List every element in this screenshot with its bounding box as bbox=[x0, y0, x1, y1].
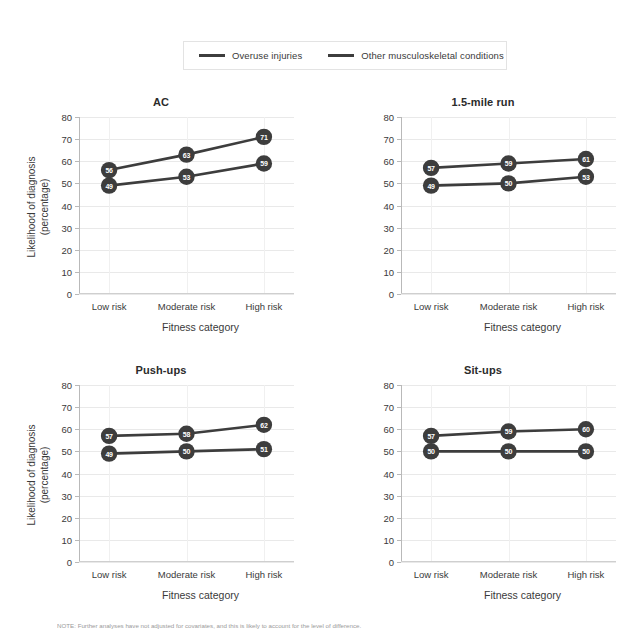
x-tick-label: Low risk bbox=[92, 301, 127, 312]
data-point-marker bbox=[178, 146, 194, 162]
data-point-marker bbox=[178, 169, 194, 185]
y-axis-title-line2: (percentage) bbox=[38, 390, 51, 560]
data-point-marker bbox=[500, 443, 516, 459]
y-tick-label: 40 bbox=[383, 468, 394, 479]
plot-area: 80706050403020100Low riskModerate riskHi… bbox=[401, 117, 616, 294]
y-tick-label: 0 bbox=[67, 289, 72, 300]
chart-legend: Overuse injuries Other musculoskeletal c… bbox=[183, 41, 507, 70]
chart-row-bottom: Push-upsLikelihood of diagnosis(percenta… bbox=[0, 360, 644, 628]
y-axis-title: Likelihood of diagnosis(percentage) bbox=[25, 122, 51, 292]
y-tick-label: 0 bbox=[389, 289, 394, 300]
y-tick-label: 50 bbox=[383, 446, 394, 457]
x-axis-title: Fitness category bbox=[322, 589, 644, 601]
y-axis-title: Likelihood of diagnosis(percentage) bbox=[25, 390, 51, 560]
y-tick-label: 50 bbox=[61, 446, 72, 457]
y-tick-label: 50 bbox=[383, 178, 394, 189]
x-axis-title: Fitness category bbox=[322, 321, 644, 333]
gridline-horizontal bbox=[79, 294, 294, 295]
data-point-marker bbox=[500, 175, 516, 191]
y-tick-label: 20 bbox=[61, 512, 72, 523]
x-axis-title: Fitness category bbox=[0, 321, 322, 333]
y-tick-label: 80 bbox=[383, 112, 394, 123]
y-tick-mark bbox=[75, 562, 79, 563]
chart-footnote: NOTE: Further analyses have not adjusted… bbox=[57, 622, 637, 632]
plot-area: 80706050403020100Low riskModerate riskHi… bbox=[79, 385, 294, 562]
x-tick-label: Low risk bbox=[414, 569, 449, 580]
data-point-marker bbox=[256, 129, 272, 145]
x-tick-label: Low risk bbox=[414, 301, 449, 312]
x-tick-label: Moderate risk bbox=[480, 301, 538, 312]
x-axis-title: Fitness category bbox=[0, 589, 322, 601]
y-tick-label: 20 bbox=[383, 244, 394, 255]
data-point-marker bbox=[101, 428, 117, 444]
y-tick-mark bbox=[75, 294, 79, 295]
chart-panel-push-ups: Push-upsLikelihood of diagnosis(percenta… bbox=[0, 360, 322, 628]
series-layer bbox=[401, 385, 616, 562]
y-tick-label: 0 bbox=[67, 557, 72, 568]
y-tick-label: 20 bbox=[383, 512, 394, 523]
y-tick-label: 40 bbox=[61, 468, 72, 479]
data-point-marker bbox=[423, 428, 439, 444]
y-tick-label: 70 bbox=[61, 134, 72, 145]
x-tick-label: Moderate risk bbox=[480, 569, 538, 580]
x-tick-label: High risk bbox=[245, 569, 282, 580]
data-point-marker bbox=[578, 151, 594, 167]
data-point-marker bbox=[578, 421, 594, 437]
y-tick-label: 10 bbox=[383, 534, 394, 545]
data-point-marker bbox=[256, 155, 272, 171]
gridline-horizontal bbox=[79, 562, 294, 563]
y-tick-label: 30 bbox=[383, 222, 394, 233]
chart-title: 1.5-mile run bbox=[322, 96, 644, 108]
chart-title: AC bbox=[0, 96, 322, 108]
y-tick-label: 30 bbox=[383, 490, 394, 501]
x-tick-label: High risk bbox=[567, 569, 604, 580]
y-tick-label: 70 bbox=[61, 402, 72, 413]
chart-panel-sit-ups: Sit-ups80706050403020100Low riskModerate… bbox=[322, 360, 644, 628]
y-tick-label: 10 bbox=[383, 266, 394, 277]
data-point-marker bbox=[178, 443, 194, 459]
y-tick-label: 10 bbox=[61, 534, 72, 545]
y-tick-label: 60 bbox=[383, 424, 394, 435]
chart-row-top: ACLikelihood of diagnosis(percentage)807… bbox=[0, 92, 644, 360]
data-point-marker bbox=[101, 445, 117, 461]
y-tick-label: 50 bbox=[61, 178, 72, 189]
chart-panel-1-5-mile-run: 1.5-mile run80706050403020100Low riskMod… bbox=[322, 92, 644, 360]
data-point-marker bbox=[256, 441, 272, 457]
x-tick-label: Low risk bbox=[92, 569, 127, 580]
data-point-marker bbox=[500, 155, 516, 171]
y-tick-label: 40 bbox=[383, 200, 394, 211]
chart-panel-ac: ACLikelihood of diagnosis(percentage)807… bbox=[0, 92, 322, 360]
y-tick-label: 80 bbox=[383, 380, 394, 391]
legend-entry-overuse-injuries: Overuse injuries bbox=[199, 50, 302, 61]
y-tick-label: 30 bbox=[61, 490, 72, 501]
y-tick-mark bbox=[397, 294, 401, 295]
y-tick-mark bbox=[397, 562, 401, 563]
gridline-horizontal bbox=[401, 562, 616, 563]
y-tick-label: 0 bbox=[389, 557, 394, 568]
y-tick-label: 10 bbox=[61, 266, 72, 277]
y-tick-label: 60 bbox=[61, 156, 72, 167]
data-point-marker bbox=[578, 443, 594, 459]
plot-area: 80706050403020100Low riskModerate riskHi… bbox=[79, 117, 294, 294]
y-axis-title-line1: Likelihood of diagnosis bbox=[26, 156, 37, 257]
chart-title: Sit-ups bbox=[322, 364, 644, 376]
data-point-marker bbox=[500, 423, 516, 439]
data-point-marker bbox=[256, 417, 272, 433]
y-tick-label: 80 bbox=[61, 112, 72, 123]
y-tick-label: 30 bbox=[61, 222, 72, 233]
data-point-marker bbox=[423, 160, 439, 176]
x-tick-label: Moderate risk bbox=[158, 569, 216, 580]
series-layer bbox=[79, 385, 294, 562]
chart-title: Push-ups bbox=[0, 364, 322, 376]
x-tick-label: High risk bbox=[567, 301, 604, 312]
data-point-marker bbox=[423, 177, 439, 193]
y-tick-label: 20 bbox=[61, 244, 72, 255]
legend-entry-other-musculoskeletal-conditions: Other musculoskeletal conditions bbox=[328, 50, 504, 61]
legend-label: Overuse injuries bbox=[232, 50, 302, 61]
x-tick-label: Moderate risk bbox=[158, 301, 216, 312]
chart-grid: ACLikelihood of diagnosis(percentage)807… bbox=[0, 92, 644, 628]
y-axis-title-line1: Likelihood of diagnosis bbox=[26, 424, 37, 525]
data-point-marker bbox=[178, 425, 194, 441]
series-layer bbox=[401, 117, 616, 294]
x-tick-label: High risk bbox=[245, 301, 282, 312]
